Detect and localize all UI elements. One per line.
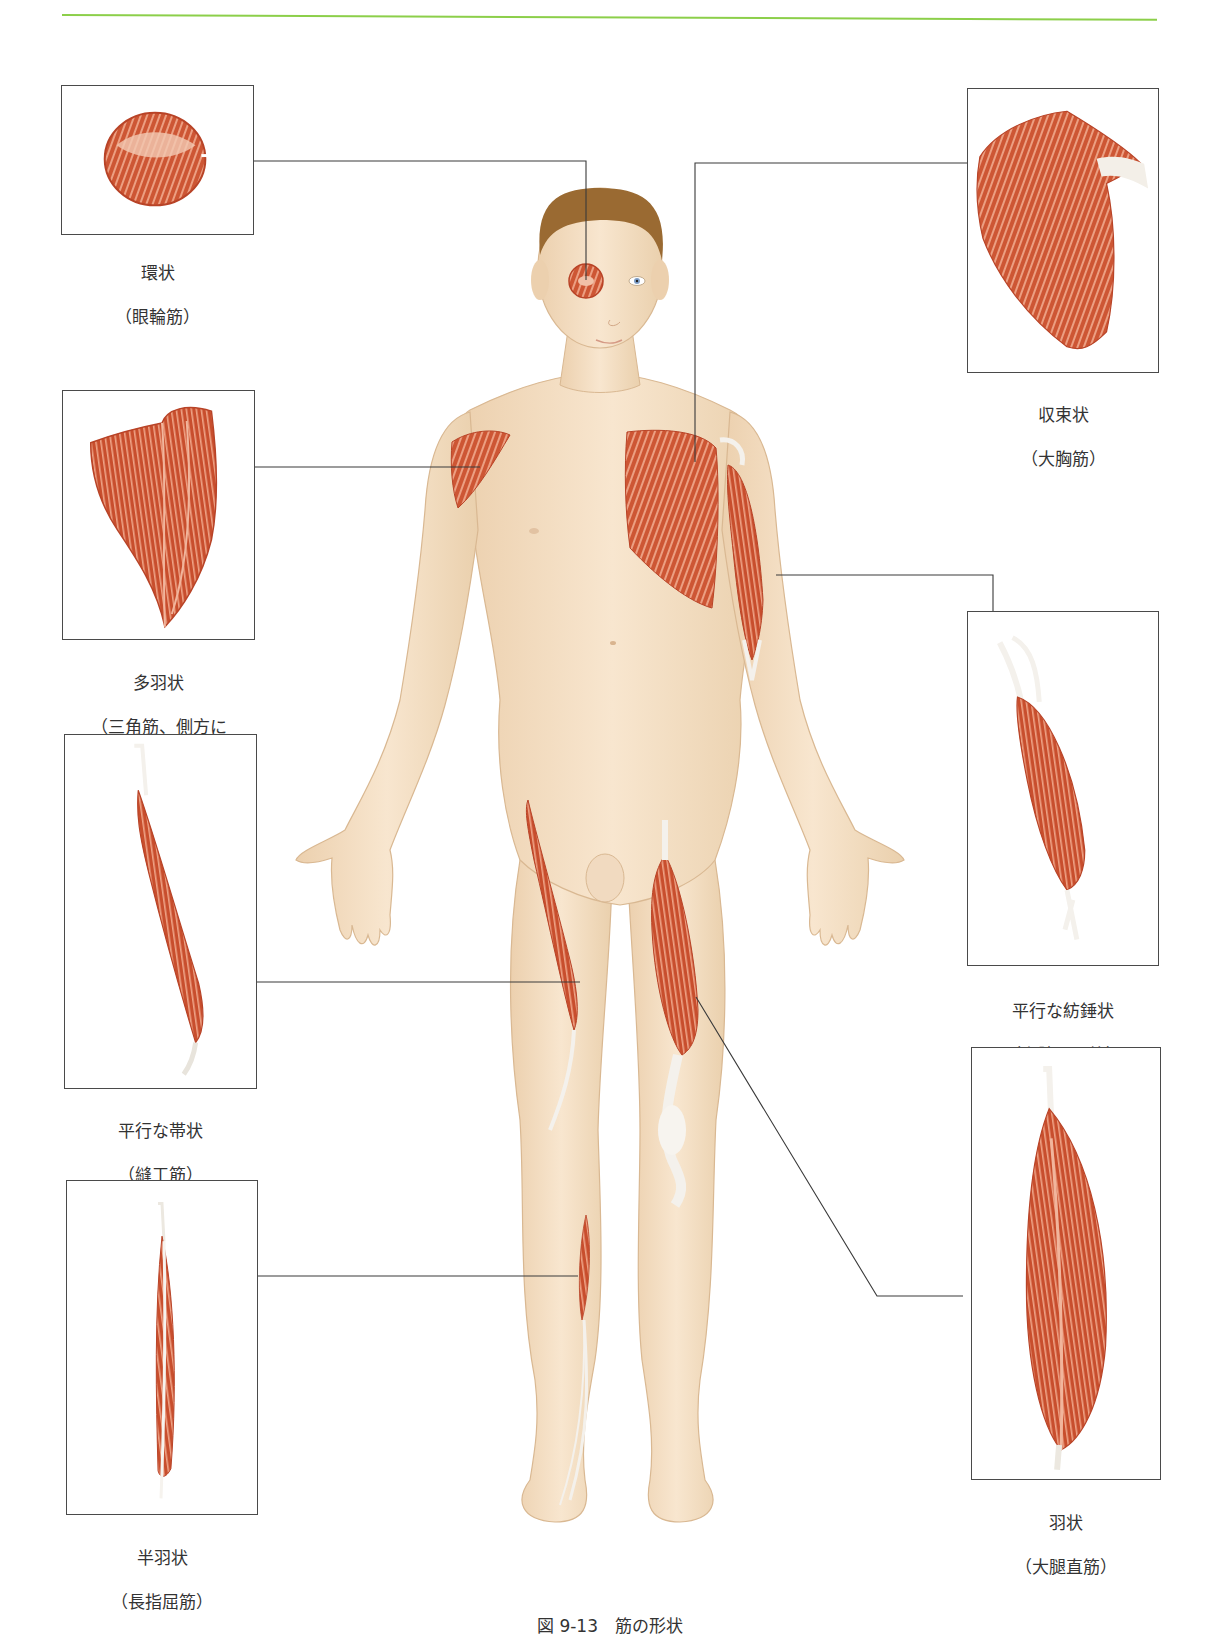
inset-label-bipennate: 羽状 （大腿直筋）: [971, 1490, 1161, 1600]
shape-name: 平行な帯状: [64, 1120, 257, 1142]
deltoid-illustration: [63, 391, 254, 639]
inset-label-circular: 環状 （眼輪筋）: [61, 240, 254, 350]
inset-convergent-muscle: [967, 88, 1159, 373]
inset-fusiform-muscle: [967, 611, 1159, 966]
inset-circular-muscle: [61, 85, 254, 235]
muscle-name: （眼輪筋）: [61, 306, 254, 328]
inset-parallel-strap-muscle: [64, 734, 257, 1089]
muscle-name: （長指屈筋）: [66, 1591, 258, 1613]
shape-name: 羽状: [971, 1512, 1161, 1534]
biceps-brachii-illustration: [968, 612, 1158, 965]
muscle-name: （大腿直筋）: [971, 1556, 1161, 1578]
shape-name: 半羽状: [66, 1547, 258, 1569]
inset-label-convergent: 収束状 （大胸筋）: [967, 382, 1159, 492]
shape-name: 収束状: [967, 404, 1159, 426]
rectus-femoris-illustration: [972, 1048, 1160, 1479]
inset-multipennate-muscle: [62, 390, 255, 640]
sartorius-illustration: [65, 735, 256, 1088]
inset-bipennate-muscle: [971, 1047, 1161, 1480]
flexor-digitorum-longus-illustration: [67, 1181, 257, 1514]
inset-unipennate-muscle: [66, 1180, 258, 1515]
shape-name: 平行な紡錘状: [967, 1000, 1159, 1022]
orbicularis-oculi-illustration: [62, 86, 253, 234]
pectoralis-major-illustration: [968, 89, 1158, 372]
shape-name: 多羽状: [62, 672, 255, 694]
muscle-name: （大胸筋）: [967, 448, 1159, 470]
figure-caption: 図 9-13 筋の形状: [0, 1612, 1220, 1637]
shape-name: 環状: [61, 262, 254, 284]
